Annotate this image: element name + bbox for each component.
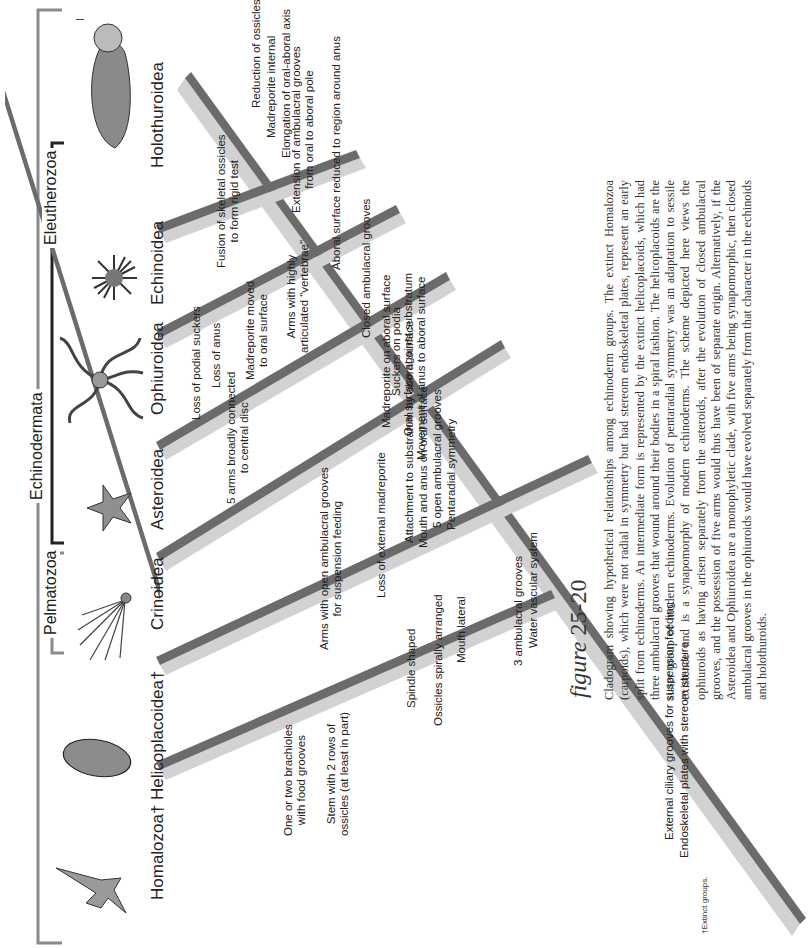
- crinoid-char-2: Loss of external madreporite: [375, 452, 388, 598]
- crinoid-char-1: Arms with open ambulacral grooves for su…: [318, 467, 344, 650]
- helicoplacoid-char-2: Ossicles spirally arranged: [432, 594, 445, 726]
- taxon-holothuroidea: Holothuroidea: [148, 62, 168, 168]
- taxon-homalozoa: Homalozoa†: [148, 805, 168, 900]
- ophiuroid-char-2: Loss of anus: [210, 323, 223, 388]
- taxon-echinoidea: Echinoidea: [148, 221, 168, 305]
- trunk-char-5-grooves: 5 open ambulacral grooves: [431, 389, 444, 528]
- homalozoan-illustration: [46, 858, 136, 928]
- ophiuroid-char-4: Arms with highly articulated "vertebrae": [285, 240, 311, 353]
- trunk-char-closed-grooves: Closed ambulacral grooves: [360, 199, 373, 338]
- holothuroid-char-2: Madreporite internal: [265, 36, 278, 138]
- taxon-crinoidea: Crinoidea: [148, 557, 168, 630]
- helicoplacoid-illustration: [50, 718, 145, 798]
- trunk-char-water-vascular: Water vascular system: [527, 532, 540, 648]
- trunk-char-pentaradial: Pentaradial symmetry: [445, 419, 458, 530]
- trunk-char-oral-surface: Oral surface against substratum: [402, 273, 415, 436]
- brittle-star-illustration: [55, 333, 145, 428]
- crinoid-illustration: [70, 580, 140, 670]
- group-label-echinodermata: Echinodermata: [28, 389, 46, 503]
- homalozoa-char-2: Stem with 2 rows of ossicles (at least i…: [325, 712, 351, 836]
- figure-title: figure25-20: [565, 580, 592, 698]
- group-label-pelmatozoa: Pelmatozoa: [42, 548, 60, 639]
- trunk-char-aboral-reduced: Aboral surface reduced to region around …: [330, 36, 343, 270]
- trunk-char-movement-anus: Movement of anus to aboral surface: [415, 277, 428, 460]
- homalozoa-char-1: One or two brachioles with food grooves: [282, 724, 308, 836]
- footnote-extinct-groups: †Extinct groups.: [700, 877, 709, 934]
- taxon-asteroidea: Asteroidea: [148, 449, 168, 530]
- sea-urchin-illustration: [92, 255, 137, 300]
- ophiuroid-char-1: Loss of podial suckers: [190, 306, 203, 420]
- sea-cucumber-illustration: [80, 18, 140, 158]
- figure-word: figure: [565, 642, 591, 698]
- figure-number: 25-20: [565, 580, 591, 636]
- asteroid-char-1: 5 arms broadly connected to central disc: [225, 372, 251, 504]
- trunk-char-3-grooves: 3 ambulacral grooves: [512, 556, 525, 666]
- helicoplacoid-char-3: Mouth lateral: [455, 597, 468, 663]
- taxon-ophiuroidea: Ophiuroidea: [148, 322, 168, 415]
- taxon-helicoplacoidea: Helicoplacoidea†: [148, 671, 168, 800]
- group-label-eleutherozoa: Eleutherozoa: [42, 148, 60, 248]
- echinoid-char-1: Fusion of skeletal ossicles to form rigi…: [215, 134, 241, 268]
- figure-caption: Cladogram showing hypothetical relations…: [602, 180, 770, 700]
- sea-star-illustration: [85, 483, 135, 533]
- cladogram-page: Echinodermata Pelmatozoa Eleutherozoa Ho…: [0, 0, 811, 948]
- trunk-char-extension-grooves: Extension of ambulacral grooves from ora…: [290, 46, 316, 213]
- holothuroid-char-1: Reduction of ossicles: [250, 0, 263, 108]
- ophiuroid-char-3: Madreporite moved to oral surface: [244, 281, 270, 380]
- helicoplacoid-char-1: Spindle shaped: [405, 629, 418, 708]
